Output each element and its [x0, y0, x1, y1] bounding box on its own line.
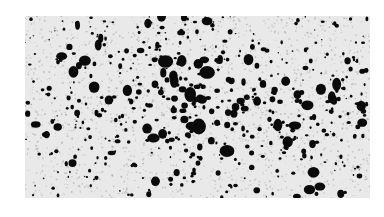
- speckle-pattern: [25, 16, 370, 198]
- speckle-photo: [25, 16, 370, 198]
